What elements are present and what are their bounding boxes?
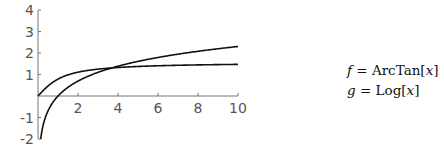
line-chart: 246810-2-11234	[0, 0, 260, 152]
x-tick-label: 6	[154, 100, 163, 116]
y-tick-label: 1	[25, 67, 34, 83]
legend: f = ArcTan[x] g = Log[x]	[347, 60, 439, 100]
y-tick-label: -1	[20, 110, 34, 126]
log-curve	[41, 46, 238, 139]
arctan-curve	[38, 64, 238, 96]
y-tick-label: 4	[25, 2, 34, 18]
x-tick-label: 2	[74, 100, 83, 116]
y-tick-label: 2	[25, 45, 34, 61]
legend-entry-f: f = ArcTan[x]	[347, 60, 439, 80]
curves	[38, 46, 238, 139]
x-tick-label: 4	[114, 100, 123, 116]
y-tick-label: 3	[25, 24, 34, 40]
x-tick-label: 8	[194, 100, 203, 116]
axes: 246810-2-11234	[20, 2, 247, 147]
legend-entry-g: g = Log[x]	[347, 80, 439, 100]
y-tick-label: -2	[20, 131, 34, 147]
x-tick-label: 10	[229, 100, 247, 116]
